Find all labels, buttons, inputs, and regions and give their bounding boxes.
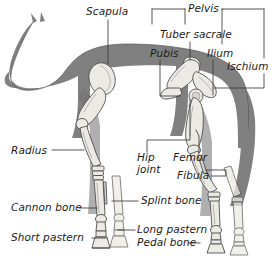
horse-anatomy-figure: Scapula Pelvis Tuber sacrale Pubis Ilium… <box>0 0 276 258</box>
pedal-bone-hind <box>207 244 225 253</box>
label-splint-bone: Splint bone <box>141 195 202 207</box>
label-short-pastern: Short pastern <box>11 232 84 244</box>
horse-skeleton-illustration <box>0 0 276 258</box>
label-tuber-sacrale: Tuber sacrale <box>160 29 232 41</box>
label-radius: Radius <box>11 145 47 157</box>
label-fibula: Fibula <box>177 170 209 182</box>
label-hip-joint: Hip joint <box>137 152 171 175</box>
label-femur: Femur <box>173 152 207 164</box>
label-ischium: Ischium <box>227 61 269 73</box>
label-pedal-bone: Pedal bone <box>137 237 196 249</box>
off-front-cannon <box>112 176 123 215</box>
label-scapula: Scapula <box>86 6 128 18</box>
label-long-pastern: Long pastern <box>137 224 207 236</box>
long-pastern-hind <box>211 233 221 240</box>
label-pelvis: Pelvis <box>188 3 219 15</box>
label-cannon-bone: Cannon bone <box>11 202 82 214</box>
pedal-bone-front <box>92 237 110 248</box>
femur-bone <box>186 98 204 149</box>
carpus-joint <box>92 166 104 180</box>
hock-joint <box>208 192 220 202</box>
label-pubis: Pubis <box>150 48 179 60</box>
short-pastern-hind <box>211 240 221 244</box>
label-ilium: Ilium <box>207 48 233 60</box>
long-pastern-front <box>96 222 106 231</box>
short-pastern-front <box>96 231 106 237</box>
horse-body-silhouette <box>5 12 256 216</box>
